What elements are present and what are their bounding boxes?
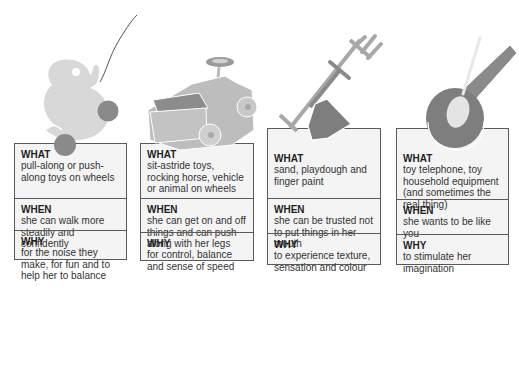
fork-and-spade-icon	[280, 36, 381, 140]
illustrations	[0, 0, 519, 367]
pan-and-spoon-icon	[426, 38, 517, 150]
duck-toy-icon	[42, 15, 137, 156]
ride-on-car-icon	[148, 57, 257, 150]
